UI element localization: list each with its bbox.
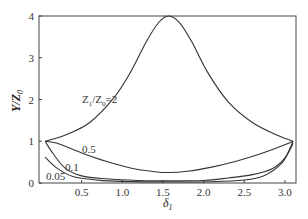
annotation-0-1: 0.1: [65, 161, 79, 173]
chart-svg: 01234 0.51.01.52.02.53.0 Z1/Z0=2 0.5 0.1…: [0, 0, 308, 219]
x-tick-label: 3.0: [278, 186, 292, 198]
y-tick-label: 1: [29, 135, 35, 147]
y-axis-ticks: 01234: [29, 10, 43, 189]
y-tick-label: 0: [29, 177, 35, 189]
y-tick-label: 4: [29, 10, 35, 22]
curve-z1-z0-2: [45, 16, 293, 141]
x-tick-label: 2.5: [237, 186, 251, 198]
y-tick-label: 2: [29, 94, 35, 106]
plot-frame: [39, 16, 296, 183]
x-tick-label: 2.0: [197, 186, 211, 198]
x-tick-label: 1.0: [115, 186, 129, 198]
x-axis-label: δ1: [163, 196, 173, 212]
annotation-0-5: 0.5: [82, 143, 96, 155]
annotation-0-05: 0.05: [46, 170, 66, 182]
y-tick-label: 3: [29, 52, 35, 64]
x-tick-label: 0.5: [75, 186, 89, 198]
annotation-z-ratio-2: Z1/Z0=2: [82, 93, 117, 108]
y-axis-label: Y/Z0: [9, 90, 25, 112]
